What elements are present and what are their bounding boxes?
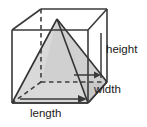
pyramid-solid xyxy=(12,19,107,103)
label-height: height xyxy=(106,43,137,55)
label-width: width xyxy=(94,83,121,95)
geometry-figure: height width length xyxy=(0,0,147,127)
label-length: length xyxy=(30,107,61,119)
prism-pyramid-diagram xyxy=(0,0,147,127)
prism-edge-depth-top-right xyxy=(88,9,107,30)
pyramid-face-back xyxy=(41,19,107,82)
prism-edge-depth-top-left xyxy=(12,9,41,30)
